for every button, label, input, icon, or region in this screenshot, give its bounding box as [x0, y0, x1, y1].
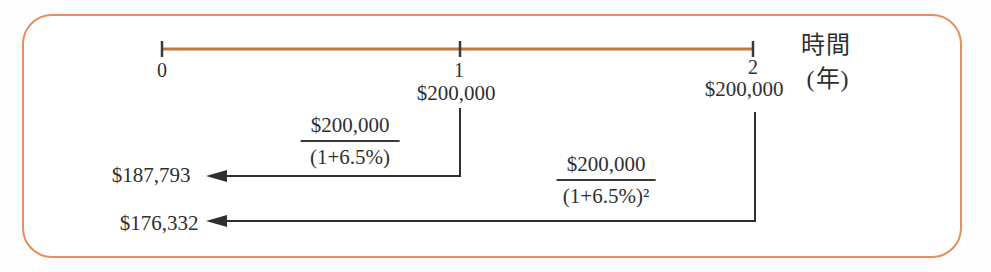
tick-label-2: 2: [748, 56, 758, 78]
axis-title-line1: 時間: [801, 32, 851, 58]
discount-formula-year2-numerator: $200,000: [557, 152, 656, 181]
discount-formula-year1-numerator: $200,000: [301, 113, 400, 142]
discount-formula-year1-denominator: (1+6.5%): [301, 142, 400, 169]
discount-formula-year2-denominator: (1+6.5%)²: [557, 181, 656, 208]
axis-title-line2: (年): [807, 66, 850, 92]
tick-label-1: 1: [454, 59, 464, 81]
discount-formula-year2: $200,000 (1+6.5%)²: [557, 152, 656, 208]
arrowhead-left-year2-icon: [206, 215, 227, 227]
tick-label-0: 0: [157, 59, 167, 81]
discount-formula-year1: $200,000 (1+6.5%): [301, 113, 400, 169]
cashflow-year2-amount: $200,000: [705, 78, 784, 101]
arrowhead-left-year1-icon: [206, 170, 227, 182]
present-value-year1: $187,793: [112, 164, 191, 187]
cashflow-year1-amount: $200,000: [417, 82, 496, 105]
present-value-year2: $176,332: [120, 212, 199, 235]
figure-canvas: 0 1 2 時間 (年) $200,000 $200,000 $200,000 …: [0, 0, 991, 272]
